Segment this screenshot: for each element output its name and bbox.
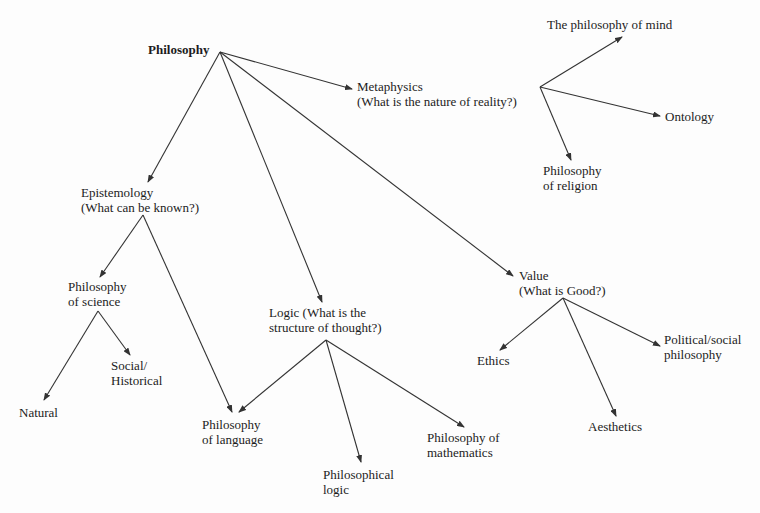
edge-arrow-value-to-aesthetics — [563, 298, 616, 416]
node-label: Philosophy of — [427, 430, 500, 445]
node-philosophy-of-language: Philosophy of language — [202, 417, 263, 447]
node-sublabel: of language — [202, 432, 263, 447]
edge-arrow-science-to-social — [98, 311, 130, 355]
node-sublabel: of religion — [543, 178, 602, 193]
node-label: Philosophy — [68, 279, 127, 294]
node-philosophy-of-mathematics: Philosophy of mathematics — [427, 430, 500, 460]
node-metaphysics: Metaphysics (What is the nature of reali… — [357, 79, 517, 109]
edge-arrow-value-to-political — [563, 298, 660, 346]
node-value: Value (What is Good?) — [519, 268, 606, 298]
edge-arrow-metaphysics-to-religion — [540, 87, 571, 160]
node-philosophical-logic: Philosophical logic — [323, 467, 394, 497]
philosophy-tree-diagram: Philosophy Metaphysics (What is the natu… — [0, 0, 760, 513]
node-label: Ethics — [477, 353, 510, 368]
edge-arrow-metaphysics-to-ontology — [540, 87, 660, 116]
node-sublabel: (What is Good?) — [519, 283, 606, 298]
node-label: Value — [519, 268, 606, 283]
node-logic: Logic (What is the structure of thought?… — [269, 305, 382, 335]
node-sublabel: of science — [68, 294, 127, 309]
node-sublabel: logic — [323, 482, 394, 497]
edge-layer — [0, 0, 760, 513]
edge-arrow-philosophy-to-epistemology — [148, 52, 220, 182]
edge-arrow-metaphysics-to-mind — [540, 37, 622, 87]
node-aesthetics: Aesthetics — [588, 419, 642, 434]
node-label: Political/social — [664, 332, 741, 347]
node-philosophy-of-mind: The philosophy of mind — [547, 17, 672, 32]
node-philosophy-of-science: Philosophy of science — [68, 279, 127, 309]
node-label: Philosophy — [148, 42, 209, 57]
node-sublabel: mathematics — [427, 445, 500, 460]
node-sublabel: (What can be known?) — [81, 200, 199, 215]
edge-arrow-epistemology-to-science — [100, 215, 143, 277]
edge-arrow-value-to-ethics — [500, 298, 563, 350]
node-label: Natural — [19, 405, 58, 420]
node-label: Aesthetics — [588, 419, 642, 434]
node-sublabel: structure of thought?) — [269, 320, 382, 335]
node-social-historical: Social/ Historical — [111, 358, 162, 388]
node-label: The philosophy of mind — [547, 17, 672, 32]
node-epistemology: Epistemology (What can be known?) — [81, 185, 199, 215]
edge-arrow-philosophy-to-metaphysics — [220, 52, 352, 89]
node-label: Philosophy — [202, 417, 263, 432]
node-sublabel: philosophy — [664, 347, 741, 362]
node-label: Metaphysics — [357, 79, 517, 94]
node-political-social-philosophy: Political/social philosophy — [664, 332, 741, 362]
node-sublabel: Historical — [111, 373, 162, 388]
edges — [44, 37, 660, 462]
edge-arrow-science-to-natural — [44, 311, 98, 400]
node-sublabel: (What is the nature of reality?) — [357, 94, 517, 109]
node-label: Philosophical — [323, 467, 394, 482]
node-ontology: Ontology — [665, 109, 714, 124]
node-label: Philosophy — [543, 163, 602, 178]
edge-arrow-logic-to-language — [239, 340, 326, 412]
node-philosophy-of-religion: Philosophy of religion — [543, 163, 602, 193]
node-philosophy: Philosophy — [148, 42, 209, 57]
node-natural: Natural — [19, 405, 58, 420]
node-label: Ontology — [665, 109, 714, 124]
node-label: Social/ — [111, 358, 162, 373]
node-ethics: Ethics — [477, 353, 510, 368]
node-label: Epistemology — [81, 185, 199, 200]
node-label: Logic (What is the — [269, 305, 382, 320]
edge-arrow-philosophy-to-logic — [220, 52, 322, 302]
